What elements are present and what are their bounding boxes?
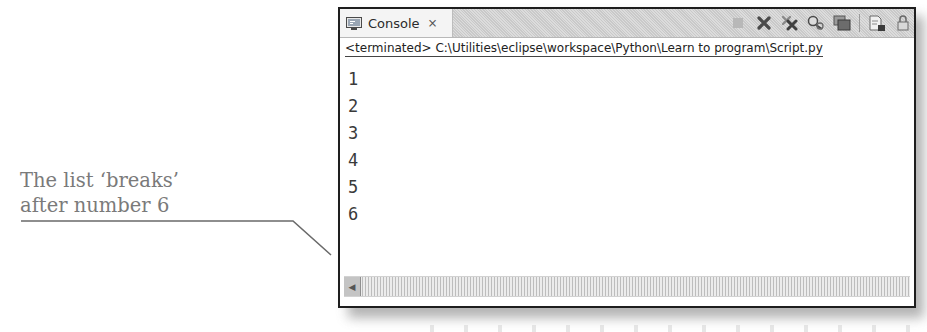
annotation-callout: The list ‘breaks’ after number 6 [20, 168, 179, 218]
output-line: 2 [348, 93, 358, 120]
output-line: 5 [348, 174, 358, 201]
remove-all-terminated-icon[interactable] [781, 14, 799, 32]
terminate-icon[interactable] [729, 14, 747, 32]
tab-label: Console [368, 16, 420, 31]
console-icon [346, 16, 362, 30]
toolbar-separator [859, 14, 860, 32]
output-line: 6 [348, 201, 358, 228]
horizontal-scrollbar[interactable]: ◀ [344, 276, 910, 297]
console-view: Console ⨯ [338, 7, 916, 308]
view-tab-strip: Console ⨯ [340, 9, 914, 38]
cropped-caption-text [400, 325, 920, 332]
output-line: 4 [348, 147, 358, 174]
output-line: 3 [348, 120, 358, 147]
tab-console[interactable]: Console ⨯ [340, 9, 453, 37]
console-toolbar [729, 9, 914, 37]
show-console-on-output-icon[interactable] [807, 14, 825, 32]
remove-launch-icon[interactable] [755, 14, 773, 32]
output-line: 1 [348, 66, 358, 93]
launch-status-bar: <terminated> C:\Utilities\eclipse\worksp… [340, 38, 914, 60]
annotation-line-2: after number 6 [20, 193, 179, 218]
annotation-line-1: The list ‘breaks’ [20, 168, 179, 193]
scroll-lock-icon[interactable] [894, 14, 912, 32]
new-console-view-icon[interactable] [868, 14, 886, 32]
terminated-status-text: <terminated> C:\Utilities\eclipse\worksp… [345, 41, 823, 57]
display-selected-console-icon[interactable] [833, 14, 851, 32]
close-icon[interactable]: ⨯ [428, 16, 438, 30]
scroll-left-button[interactable]: ◀ [344, 277, 361, 296]
console-output[interactable]: 1 2 3 4 5 6 [348, 66, 358, 228]
